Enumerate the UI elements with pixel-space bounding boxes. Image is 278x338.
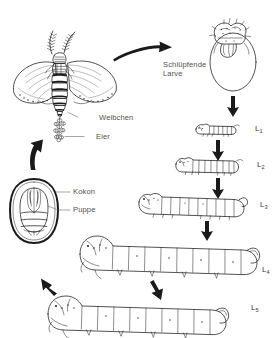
label-weibchen: Weibchen <box>99 113 133 122</box>
stage-label-l4: L4 <box>262 265 270 274</box>
stage-label-l2: L2 <box>257 160 265 169</box>
stage-label-l5-index: 5 <box>255 307 258 313</box>
stage-label-l5: L5 <box>251 303 259 312</box>
life-cycle-diagram: .s{fill:none;stroke:#1a1a1a;stroke-width… <box>0 0 278 338</box>
diagram-artwork: .s{fill:none;stroke:#1a1a1a;stroke-width… <box>0 0 278 338</box>
label-schluepfende-larve-line1: Schlüpfende <box>163 60 206 69</box>
stage-label-l4-index: 4 <box>266 269 269 275</box>
stage-label-l2-index: 2 <box>261 164 264 170</box>
label-schluepfende-larve: Schlüpfende Larve <box>163 60 219 79</box>
stage-label-l3: L3 <box>260 200 268 209</box>
label-puppe: Puppe <box>73 205 95 214</box>
label-kokon: Kokon <box>73 187 95 196</box>
label-schluepfende-larve-line2: Larve <box>163 69 183 78</box>
stage-label-l1-index: 1 <box>259 128 262 134</box>
stage-label-l3-index: 3 <box>264 204 267 210</box>
label-eier: Eier <box>96 132 110 141</box>
stage-label-l1: L1 <box>255 124 263 133</box>
